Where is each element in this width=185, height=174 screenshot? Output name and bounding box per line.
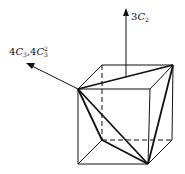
cube-edge <box>172 65 173 140</box>
c3-arrow-icon <box>26 63 35 69</box>
tetrahedron-edge <box>102 140 148 164</box>
tetrahedron-edge <box>78 89 148 164</box>
c3-label: 4C3,4C23 <box>9 45 48 58</box>
c2-label: 3C2 <box>131 11 149 23</box>
c3-axis <box>32 66 78 89</box>
cube-edge <box>78 140 102 164</box>
cube-tetrahedron-diagram: 3C2 4C3,4C23 <box>0 0 185 174</box>
tetrahedron-edge <box>78 89 102 140</box>
c2-arrow-icon <box>123 8 129 16</box>
tetrahedron-edge <box>148 65 173 164</box>
